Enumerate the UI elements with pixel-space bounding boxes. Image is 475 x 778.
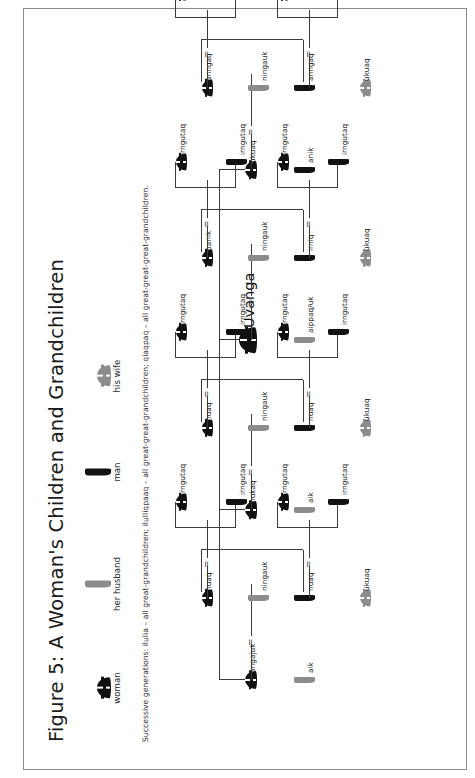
marriage-line [309,56,310,88]
person-label: irngutaq [239,464,246,495]
grandchild-bus-line [175,357,235,358]
female-symbol-icon [176,154,188,171]
person-label: irngutaq [179,294,186,325]
grandchild-link-line [337,502,338,528]
female-symbol-icon [360,80,372,97]
sibling-stub-line [219,169,245,170]
marriage-line [309,226,310,258]
descent-line [251,414,252,466]
male-symbol-icon [226,499,247,505]
figure-page: Figure 5: A Woman's Children and Grandch… [0,0,475,778]
person-label: irngutaq [239,294,246,325]
descent-line [309,10,310,48]
female-symbol-icon [278,0,290,1]
marriage-symbol: = [202,561,211,568]
male-symbol-icon [328,159,349,165]
grandchild-bus-line [277,357,337,358]
children-bus-line [201,39,303,40]
person-label: ningauk [261,561,268,591]
person-label: irngutaq [239,124,246,155]
male-symbol-icon [226,159,247,165]
person-label: irngutaq [281,294,288,325]
male-symbol-icon [294,85,315,91]
marriage-symbol: = [246,639,255,646]
descent-line [251,244,252,296]
marriage-line [251,134,252,170]
person-label: irngutaq [281,124,288,155]
person-label: aik [307,662,314,673]
marriage-line [309,566,310,598]
male-symbol-icon [294,167,315,173]
person-label: irngutaq [281,464,288,495]
descent-line [251,74,252,126]
descent-line [309,350,310,388]
person-label: anik [307,147,314,163]
grandchild-bus-line [277,527,337,528]
male-symbol-icon [248,425,269,431]
female-symbol-icon [278,324,290,341]
person-label: ukuaq [363,228,370,251]
male-symbol-icon [226,329,247,335]
female-symbol-icon [360,250,372,267]
male-symbol-icon [248,85,269,91]
marriage-symbol: = [246,129,255,136]
person-label: irngutaq [179,124,186,155]
grandchild-link-line [337,162,338,188]
grandchild-link-line [337,332,338,358]
male-symbol-icon [294,337,315,343]
children-bus-line [201,549,303,550]
descent-line [309,520,310,558]
marriage-line [251,474,252,510]
grandchild-link-line [337,0,338,18]
grandchild-bus-line [175,527,235,528]
descent-line [207,180,208,218]
sibling-stub-line [219,509,245,510]
descent-line [207,350,208,388]
sibling-stub-line [219,679,245,680]
child-link-line [201,550,202,592]
male-symbol-icon [294,507,315,513]
figure-canvas: Figure 5: A Woman's Children and Grandch… [23,8,467,770]
person-label: ningauk [261,51,268,81]
marriage-symbol: = [304,221,313,228]
descent-line [251,584,252,636]
grandchild-link-line [175,0,176,18]
female-symbol-icon [360,420,372,437]
descent-line [207,520,208,558]
person-label: ukuaq [363,568,370,591]
child-link-line [303,40,304,82]
person-label: irngutaq [179,464,186,495]
child-link-line [201,40,202,82]
child-link-line [201,380,202,422]
female-symbol-icon [176,494,188,511]
marriage-line [207,56,208,88]
grandchild-link-line [235,162,236,188]
marriage-symbol: = [202,221,211,228]
male-symbol-icon [294,425,315,431]
children-bus-line [201,379,303,380]
female-symbol-icon [278,494,290,511]
marriage-line [207,396,208,428]
marriage-symbol: = [304,391,313,398]
male-symbol-icon [294,595,315,601]
female-symbol-icon [176,324,188,341]
marriage-symbol: = [202,51,211,58]
marriage-line [251,644,252,680]
child-link-line [303,380,304,422]
male-symbol-icon [248,255,269,261]
grandchild-bus-line [277,17,337,18]
male-symbol-icon [248,595,269,601]
descent-line [309,180,310,218]
grandchild-link-line [235,332,236,358]
person-label: irngutaq [341,124,348,155]
male-symbol-icon [328,499,349,505]
male-symbol-icon [294,255,315,261]
male-symbol-icon [328,329,349,335]
person-label: aippaq/uk [307,296,314,333]
kinship-tree: ukuaq=anikanngaqningauk=irngutaqirngutaq… [23,8,467,770]
child-link-line [303,550,304,592]
children-bus-line [201,209,303,210]
marriage-symbol: = [246,299,255,306]
grandchild-bus-line [277,187,337,188]
person-label: irngutaq [341,464,348,495]
